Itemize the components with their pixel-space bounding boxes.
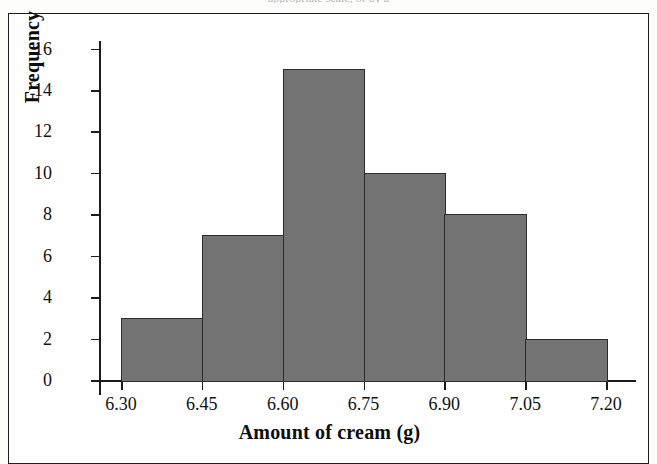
y-axis-tick — [91, 339, 100, 341]
y-axis-tick — [91, 131, 100, 133]
y-axis-line — [99, 41, 101, 395]
histogram-bar — [364, 173, 446, 382]
x-axis-tick-label: 6.45 — [162, 394, 242, 415]
y-axis-tick — [91, 380, 100, 382]
y-axis-tick — [91, 297, 100, 299]
histogram-bar — [283, 69, 365, 381]
cut-off-caption-text: appropriate scale, or by a — [0, 0, 657, 3]
y-axis-title: Frequency — [21, 0, 44, 142]
x-axis-tick-label: 6.75 — [324, 394, 404, 415]
x-axis-tick-label: 6.60 — [243, 394, 323, 415]
y-axis-tick — [91, 173, 100, 175]
y-axis-tick-label: 4 — [12, 287, 52, 308]
histogram-bar — [444, 214, 526, 381]
histogram-bar — [121, 318, 203, 382]
y-axis-tick-label: 6 — [12, 246, 52, 267]
x-axis-title: Amount of cream (g) — [9, 421, 650, 444]
y-axis-tick-label: 0 — [12, 370, 52, 391]
y-axis-tick-label: 2 — [12, 329, 52, 350]
histogram-bar — [525, 339, 607, 382]
x-axis-tick-label: 7.05 — [485, 394, 565, 415]
histogram-bar — [202, 235, 284, 382]
histogram-plot-area: 0246810121416 6.306.456.606.756.907.057.… — [9, 14, 650, 464]
y-axis-tick-label: 8 — [12, 204, 52, 225]
y-axis-tick — [91, 256, 100, 258]
x-axis-tick-label: 6.90 — [404, 394, 484, 415]
y-axis-tick-label: 10 — [12, 163, 52, 184]
y-axis-tick — [91, 90, 100, 92]
y-axis-tick — [91, 214, 100, 216]
x-axis-tick-label: 6.30 — [81, 394, 161, 415]
y-axis-tick — [91, 49, 100, 51]
figure-frame: 0246810121416 6.306.456.606.756.907.057.… — [8, 13, 649, 464]
x-axis-tick-label: 7.20 — [566, 394, 646, 415]
